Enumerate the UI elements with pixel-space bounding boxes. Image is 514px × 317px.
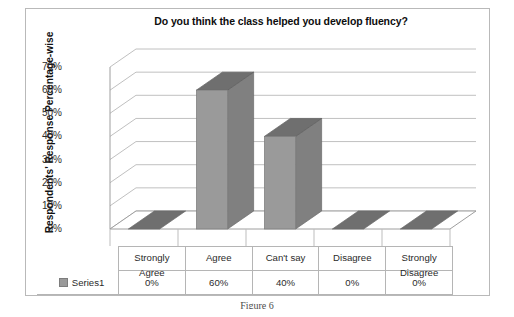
table-cell-value: 40% — [252, 271, 319, 295]
y-tick-label: 10% — [26, 200, 62, 211]
y-tick-label: 40% — [26, 130, 62, 141]
data-table: StronglyAgreeAgreeCan't sayDisagreeStron… — [37, 246, 453, 295]
table-cell-category: Can't say — [252, 247, 319, 271]
chart-title: Do you think the class helped you develo… — [86, 15, 476, 27]
table-cell-category: Agree — [185, 247, 252, 271]
y-axis-tick-labels: 0%10%20%30%40%50%60%70% — [26, 29, 62, 247]
legend-swatch-icon — [59, 278, 68, 287]
y-tick-label: 30% — [26, 154, 62, 165]
plot-svg — [88, 29, 488, 247]
legend-spacer — [37, 247, 119, 271]
table-cell-category: StronglyAgree — [119, 247, 186, 271]
y-tick-label: 70% — [26, 61, 62, 72]
plot-area — [88, 29, 488, 247]
table-cell-category: Disagree — [319, 247, 386, 271]
category-line-1: Strongly — [119, 253, 185, 264]
legend-series1[interactable]: Series1 — [37, 271, 119, 295]
table-cell-value: 0% — [386, 271, 453, 295]
category-line-1: Strongly — [386, 253, 452, 264]
table-cell-value: 60% — [185, 271, 252, 295]
table-cell-category: StronglyDisagree — [386, 247, 453, 271]
bar-1 — [196, 72, 253, 229]
category-separators — [110, 229, 450, 246]
table-cell-value: 0% — [119, 271, 186, 295]
table-cell-value: 0% — [319, 271, 386, 295]
bar-2 — [264, 118, 321, 229]
legend-series-label: Series1 — [72, 277, 105, 288]
table-row-values: Series10%60%40%0%0% — [37, 271, 453, 295]
y-tick-label: 50% — [26, 107, 62, 118]
figure-caption: Figure 6 — [0, 300, 514, 309]
figure-container: Do you think the class helped you develo… — [0, 0, 514, 317]
table-row-categories: StronglyAgreeAgreeCan't sayDisagreeStron… — [37, 247, 453, 271]
y-tick-label: 20% — [26, 177, 62, 188]
y-tick-label: 60% — [26, 84, 62, 95]
y-tick-label: 0% — [26, 223, 62, 234]
